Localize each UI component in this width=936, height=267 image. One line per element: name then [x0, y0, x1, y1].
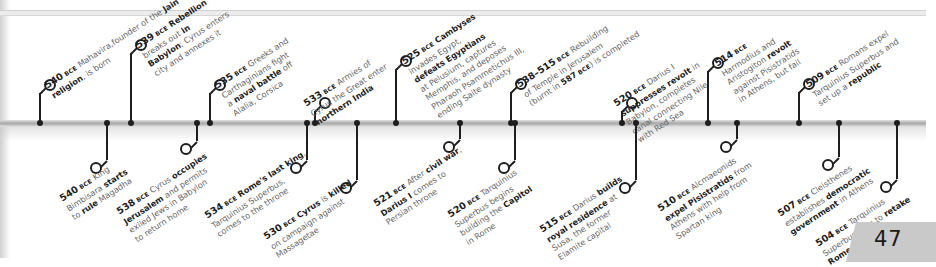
pin-stem: [736, 123, 738, 139]
event-label-above-7: 514 BCEHarmodius andAristogiton revoltag…: [713, 18, 807, 105]
pin-stem: [356, 123, 358, 180]
pin-ring-icon: [720, 141, 732, 153]
event-label-below-7: 510 BCE Alcmaeonidsexpel Pisistratids fr…: [656, 150, 765, 242]
page-number-tab: 47: [846, 222, 936, 262]
event-label-above-3: 533 BCE Armies ofCyrus the Great enterno…: [302, 51, 395, 127]
pin-stem: [395, 69, 397, 123]
pin-stem: [798, 92, 800, 123]
pin-stem: [896, 123, 898, 179]
pin-ring-icon: [822, 159, 834, 171]
event-text-bold: Jain: [161, 0, 181, 14]
event-text-bold: retake: [881, 194, 911, 219]
pin-stem: [39, 93, 41, 123]
top-rule-divider: [0, 10, 926, 16]
pin-stem: [209, 93, 211, 123]
event-label-below-1: 538 BCE Cyrus occupiesJerusalem and perm…: [115, 151, 227, 244]
page-number: 47: [874, 227, 903, 251]
pin-stem: [130, 53, 132, 123]
pin-stem: [459, 123, 461, 139]
pin-stem: [196, 123, 198, 141]
pin-stem: [635, 123, 637, 180]
pin-ring-icon: [180, 143, 192, 155]
timeline-bar-shadow: [0, 127, 926, 141]
timeline-bar: [0, 120, 926, 127]
event-label-above-2: 535 BCE Greeks andCarthaginians fighta n…: [213, 35, 308, 118]
pin-stem: [838, 123, 840, 157]
pin-stem: [514, 123, 516, 160]
event-text: Tarquinius Superbus and: [810, 36, 900, 99]
event-label-above-8: 509 BCE Romans expelTarquinius Superbus …: [804, 26, 906, 108]
pin-stem: [510, 92, 512, 123]
pin-stem: [106, 123, 108, 160]
pin-stem: [707, 71, 709, 123]
event-label-below-6: 515 BCE Darius buildsroyal residence atS…: [538, 174, 642, 262]
